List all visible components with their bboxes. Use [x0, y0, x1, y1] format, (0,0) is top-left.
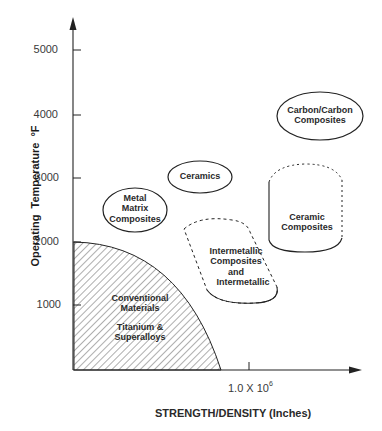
conventional-materials-label: Conventional Materials Titanium & Supera…: [96, 293, 184, 342]
x-axis-label: STRENGTH/DENSITY (Inches): [155, 407, 311, 420]
ceramic-composites-label: Ceramic Composites: [272, 212, 342, 233]
y-tick-5000: 5000: [18, 43, 58, 56]
ceramics-label: Ceramics: [168, 171, 232, 181]
x-axis-arrow: [349, 367, 362, 374]
ceramic-composites-top: [269, 164, 342, 182]
y-axis-arrow: [70, 17, 77, 30]
intermetallic-label: Intermetallic Composites and Intermetall…: [196, 246, 276, 287]
x-tick-label: 1.0 X 106: [228, 380, 273, 395]
y-tick-1000: 1000: [21, 298, 61, 311]
metal-matrix-label: Metal Matrix Composites: [103, 193, 167, 224]
carbon-carbon-label: Carbon/Carbon Composites: [280, 105, 360, 126]
y-axis-label: Operating Temperature °F: [29, 106, 41, 286]
